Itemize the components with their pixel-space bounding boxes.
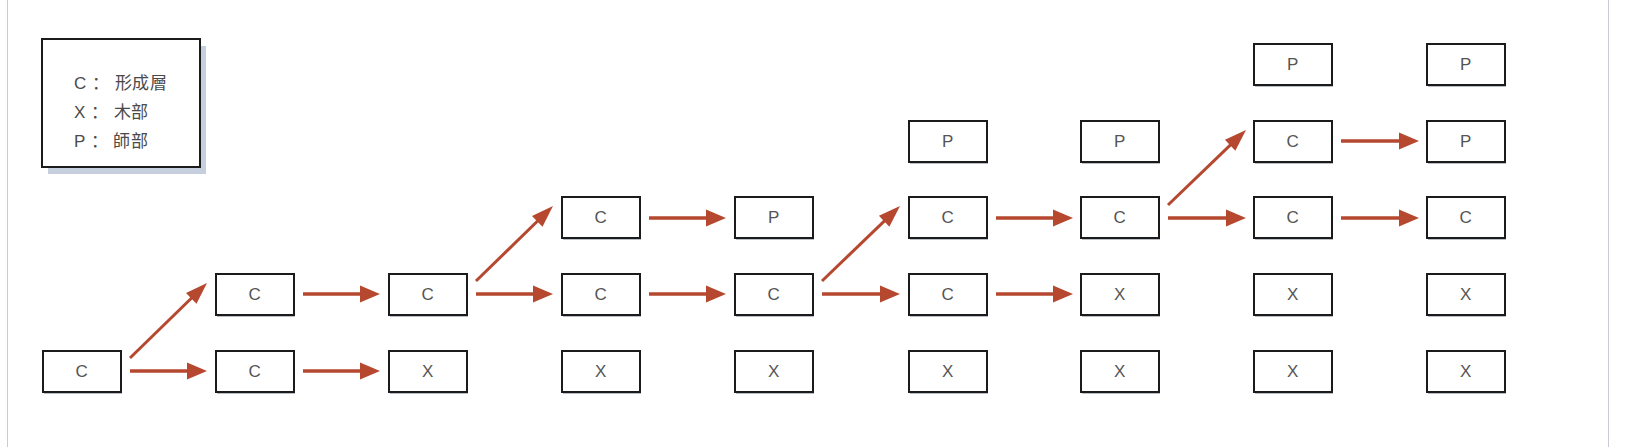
cell-c7r5: X bbox=[1080, 350, 1160, 393]
arrow-c5r4-to-c6r3 bbox=[822, 206, 900, 281]
cell-label: P bbox=[1287, 56, 1299, 73]
legend-line-cambium: C ： 形成層 bbox=[74, 71, 167, 97]
page-border-left bbox=[7, 0, 8, 447]
cell-c8r1: P bbox=[1253, 43, 1333, 86]
cell-label: C bbox=[1460, 209, 1473, 226]
arrow-c3r4-to-c4r3 bbox=[476, 206, 553, 281]
legend-line-xylem: X ： 木部 bbox=[74, 100, 167, 126]
arrow-c4r4-to-c5r4 bbox=[649, 286, 726, 303]
legend-lines: C ： 形成層 X ： 木部 P ： 師部 bbox=[74, 71, 167, 155]
cell-c4r3: C bbox=[561, 196, 641, 239]
arrow-head-icon bbox=[1399, 210, 1419, 227]
cell-c1r5: C bbox=[42, 350, 122, 393]
cell-c8r5: X bbox=[1253, 350, 1333, 393]
arrow-head-icon bbox=[1225, 130, 1246, 151]
cell-label: C bbox=[76, 363, 89, 380]
cell-c9r3: C bbox=[1426, 196, 1506, 239]
cell-label: X bbox=[1460, 286, 1472, 303]
arrow-shaft bbox=[1168, 143, 1232, 205]
cell-label: C bbox=[1287, 133, 1300, 150]
arrow-head-icon bbox=[186, 283, 207, 304]
arrow-c6r3-to-c7r3 bbox=[996, 210, 1073, 227]
cell-label: C bbox=[1287, 209, 1300, 226]
cell-label: C bbox=[768, 286, 781, 303]
arrow-c7r3-to-c8r2 bbox=[1168, 130, 1246, 205]
cell-label: X bbox=[1114, 286, 1126, 303]
cell-c6r2: P bbox=[908, 120, 988, 163]
arrow-head-icon bbox=[187, 363, 207, 380]
cell-label: X bbox=[1114, 363, 1126, 380]
arrow-c5r4-to-c6r4 bbox=[822, 286, 900, 303]
cell-c2r4: C bbox=[215, 273, 295, 316]
cell-label: P bbox=[1114, 133, 1126, 150]
cell-label: X bbox=[1287, 363, 1299, 380]
arrow-c2r4-to-c3r4 bbox=[303, 286, 380, 303]
cell-label: X bbox=[595, 363, 607, 380]
arrow-head-icon bbox=[879, 206, 900, 227]
arrow-head-icon bbox=[360, 286, 380, 303]
arrow-c1r5-to-c2r4 bbox=[130, 283, 207, 358]
cell-c4r4: C bbox=[561, 273, 641, 316]
arrow-head-icon bbox=[1399, 133, 1419, 150]
arrow-c8r2-to-c9r2 bbox=[1341, 133, 1419, 150]
cell-c5r4: C bbox=[734, 273, 814, 316]
arrow-shaft bbox=[130, 296, 193, 358]
legend-line-phloem: P ： 師部 bbox=[74, 129, 167, 155]
arrow-head-icon bbox=[532, 206, 553, 227]
arrow-c4r3-to-c5r3 bbox=[649, 210, 726, 227]
cell-label: C bbox=[1114, 209, 1127, 226]
cell-label: X bbox=[1287, 286, 1299, 303]
cell-label: P bbox=[942, 133, 954, 150]
cell-c7r4: X bbox=[1080, 273, 1160, 316]
arrow-c2r5-to-c3r5 bbox=[303, 363, 380, 380]
cell-c9r2: P bbox=[1426, 120, 1506, 163]
page-border-right bbox=[1608, 0, 1609, 447]
cell-c2r5: C bbox=[215, 350, 295, 393]
arrow-c8r3-to-c9r3 bbox=[1341, 210, 1419, 227]
cell-label: X bbox=[1460, 363, 1472, 380]
cell-label: X bbox=[422, 363, 434, 380]
arrow-head-icon bbox=[1053, 210, 1073, 227]
cell-label: P bbox=[1460, 56, 1472, 73]
arrow-shaft bbox=[822, 219, 886, 281]
arrow-head-icon bbox=[360, 363, 380, 380]
cell-label: P bbox=[1460, 133, 1472, 150]
cell-c8r3: C bbox=[1253, 196, 1333, 239]
arrow-head-icon bbox=[533, 286, 553, 303]
cell-c5r5: X bbox=[734, 350, 814, 393]
cell-label: C bbox=[422, 286, 435, 303]
arrow-c7r3-to-c8r3 bbox=[1168, 210, 1246, 227]
cell-c6r5: X bbox=[908, 350, 988, 393]
arrow-c3r4-to-c4r4 bbox=[476, 286, 553, 303]
cell-label: C bbox=[249, 363, 262, 380]
cell-c8r4: X bbox=[1253, 273, 1333, 316]
cell-c7r3: C bbox=[1080, 196, 1160, 239]
cell-label: C bbox=[942, 209, 955, 226]
arrow-head-icon bbox=[1053, 286, 1073, 303]
cell-c6r3: C bbox=[908, 196, 988, 239]
arrow-c6r4-to-c7r4 bbox=[996, 286, 1073, 303]
arrow-c1r5-to-c2r5 bbox=[130, 363, 207, 380]
cell-label: P bbox=[768, 209, 780, 226]
arrow-head-icon bbox=[880, 286, 900, 303]
cell-c4r5: X bbox=[561, 350, 641, 393]
cell-c9r5: X bbox=[1426, 350, 1506, 393]
cell-c9r1: P bbox=[1426, 43, 1506, 86]
cell-label: C bbox=[942, 286, 955, 303]
cell-label: X bbox=[942, 363, 954, 380]
arrow-shaft bbox=[476, 219, 539, 281]
arrow-head-icon bbox=[706, 210, 726, 227]
diagram-page: C ： 形成層 X ： 木部 P ： 師部 CCCCXCCXPCXPCCXPCX… bbox=[0, 0, 1646, 447]
cell-c3r4: C bbox=[388, 273, 468, 316]
arrow-head-icon bbox=[1226, 210, 1246, 227]
cell-c8r2: C bbox=[1253, 120, 1333, 163]
cell-c7r2: P bbox=[1080, 120, 1160, 163]
cell-label: C bbox=[249, 286, 262, 303]
arrow-head-icon bbox=[706, 286, 726, 303]
legend-box: C ： 形成層 X ： 木部 P ： 師部 bbox=[41, 38, 201, 168]
cell-label: X bbox=[768, 363, 780, 380]
cell-label: C bbox=[595, 286, 608, 303]
cell-c5r3: P bbox=[734, 196, 814, 239]
cell-c6r4: C bbox=[908, 273, 988, 316]
cell-c9r4: X bbox=[1426, 273, 1506, 316]
